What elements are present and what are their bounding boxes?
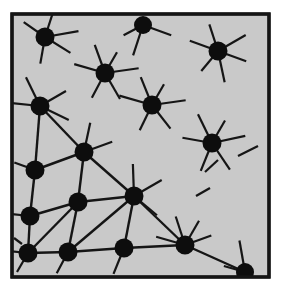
lattice-node — [115, 239, 134, 258]
figure-container — [0, 0, 285, 304]
figure-frame — [12, 14, 269, 277]
lattice-node — [21, 207, 40, 226]
lattice-node — [176, 236, 195, 255]
lattice-node — [26, 161, 45, 180]
lattice-node — [69, 193, 88, 212]
lattice-node — [96, 64, 115, 83]
lattice-node — [125, 187, 144, 206]
lattice-node — [31, 97, 50, 116]
lattice-node — [75, 143, 94, 162]
lattice-node — [209, 42, 228, 61]
lattice-node — [203, 134, 222, 153]
lattice-node — [19, 244, 38, 263]
lattice-node — [134, 16, 152, 34]
network-lattice-diagram — [0, 0, 285, 304]
lattice-node — [36, 28, 55, 47]
lattice-node — [59, 243, 78, 262]
lattice-node — [143, 96, 162, 115]
